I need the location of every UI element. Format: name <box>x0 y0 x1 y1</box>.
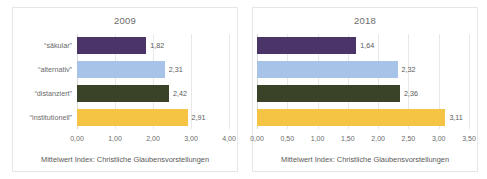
value-tick-label: 3,00 <box>184 135 198 142</box>
bar-series-2018: 1,642,322,363,11 <box>257 34 469 129</box>
value-axis-2018: 0,000,501,001,502,002,503,003,50 <box>257 133 469 147</box>
category-label: “distanziert” <box>34 90 72 97</box>
value-tick-label: 1,00 <box>108 135 122 142</box>
x-axis-title-2018: Mittelwert Index: Christliche Glaubensvo… <box>253 156 477 163</box>
bar-value-label: 2,91 <box>192 114 206 121</box>
bar-value-label: 3,11 <box>449 114 462 121</box>
bar-row: 3,11 <box>257 109 469 126</box>
value-tick-label: 4,00 <box>222 135 236 142</box>
bar-row: 2,32 <box>257 61 469 78</box>
value-tick-label: 0,00 <box>70 135 84 142</box>
chart-panel-2018: 2018 1,642,322,363,11 0,000,501,001,502,… <box>252 7 478 172</box>
plot-area-2018: 1,642,322,363,11 <box>253 34 477 171</box>
bar-row: 2,36 <box>257 85 469 102</box>
bars-region-2009: 1,822,312,422,91 <box>77 34 229 129</box>
gridline <box>469 34 470 129</box>
bar-value-label: 1,64 <box>360 42 374 49</box>
bar-series-2009: 1,822,312,422,91 <box>77 34 229 129</box>
chart-title-2009: 2009 <box>13 15 237 26</box>
value-axis-2009: 0,001,002,003,004,00 <box>77 133 229 147</box>
bar[interactable] <box>257 61 398 78</box>
bar-value-label: 2,36 <box>404 90 418 97</box>
bar[interactable] <box>77 85 169 102</box>
bar-value-label: 1,82 <box>150 42 164 49</box>
bar[interactable] <box>257 85 400 102</box>
gridline <box>229 34 230 129</box>
value-tick-label: 0,50 <box>280 135 294 142</box>
chart-panel-2009: 2009 “säkular”“alternativ”“distanziert”“… <box>12 7 238 172</box>
x-axis-title-2009: Mittelwert Index: Christliche Glaubensvo… <box>13 156 237 163</box>
bar[interactable] <box>77 37 146 54</box>
bar-row: 2,42 <box>77 85 229 102</box>
category-axis-2009: “säkular”“alternativ”“distanziert”“insti… <box>19 34 77 129</box>
plot-area-2009: “säkular”“alternativ”“distanziert”“insti… <box>13 34 237 171</box>
value-tick-label: 0,00 <box>250 135 264 142</box>
bar-row: 2,31 <box>77 61 229 78</box>
bar-value-label: 2,42 <box>173 90 187 97</box>
chart-page: 2009 “säkular”“alternativ”“distanziert”“… <box>0 0 487 179</box>
bar-value-label: 2,31 <box>169 66 183 73</box>
value-tick-label: 2,00 <box>146 135 160 142</box>
category-label: “institutionell” <box>30 114 72 121</box>
bar-row: 1,82 <box>77 37 229 54</box>
bar[interactable] <box>77 61 165 78</box>
bar[interactable] <box>77 109 188 126</box>
bar-value-label: 2,32 <box>402 66 416 73</box>
category-label: “säkular” <box>44 42 72 49</box>
value-tick-label: 3,00 <box>432 135 446 142</box>
bar[interactable] <box>257 109 445 126</box>
value-tick-label: 2,00 <box>371 135 385 142</box>
value-tick-label: 1,00 <box>311 135 325 142</box>
bar[interactable] <box>257 37 356 54</box>
value-tick-label: 3,50 <box>462 135 476 142</box>
value-tick-label: 1,50 <box>341 135 355 142</box>
bar-row: 2,91 <box>77 109 229 126</box>
chart-title-2018: 2018 <box>253 15 477 26</box>
bars-region-2018: 1,642,322,363,11 <box>257 34 469 129</box>
bar-row: 1,64 <box>257 37 469 54</box>
value-tick-label: 2,50 <box>402 135 416 142</box>
category-label: “alternativ” <box>38 66 72 73</box>
